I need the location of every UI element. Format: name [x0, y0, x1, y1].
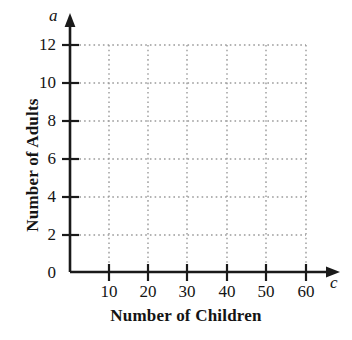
x-tick-label-30: 30	[167, 283, 207, 300]
x-tick-label-20: 20	[128, 283, 168, 300]
y-axis-title: Number of Adults	[23, 75, 43, 255]
gridlines-horizontal	[70, 45, 306, 235]
x-tick-label-60: 60	[286, 283, 326, 300]
y-axis-arrowhead	[65, 13, 76, 27]
y-tick-label-0: 0	[22, 264, 56, 281]
coordinate-grid-figure: a c 12 10 8 6 4 2 0 10 20 30 40 50 60 Nu…	[0, 0, 352, 340]
x-axis-title: Number of Children	[56, 306, 316, 326]
y-tick-label-12: 12	[22, 36, 56, 53]
x-axis-variable-label: c	[330, 273, 338, 293]
x-tick-label-40: 40	[207, 283, 247, 300]
y-axis-variable-label: a	[49, 6, 58, 26]
x-tick-label-10: 10	[89, 283, 129, 300]
x-tick-label-50: 50	[246, 283, 286, 300]
